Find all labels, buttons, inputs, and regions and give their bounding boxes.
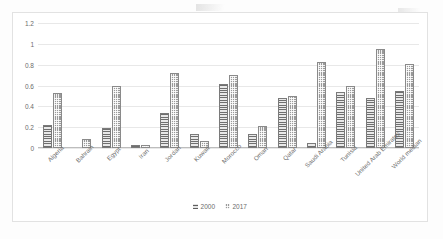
x-axis-labels: AlgeriaBahrainEgyptIranJordanKuwaitMoroc… <box>38 149 419 211</box>
plot-area: 00.20.40.60.811.2 <box>38 23 419 148</box>
bar-2017-egypt[interactable] <box>112 86 121 149</box>
bar-group <box>97 23 126 148</box>
bar-group <box>38 23 67 148</box>
bar-2000-tunisia[interactable] <box>336 92 345 148</box>
bar-2000-iran[interactable] <box>131 145 140 148</box>
bar-2017-morocco[interactable] <box>229 75 238 148</box>
legend-swatch-icon <box>225 204 230 209</box>
x-label-cell: Bahrain <box>67 149 96 211</box>
bar-group <box>67 23 96 148</box>
bar-2000-morocco[interactable] <box>219 84 228 148</box>
x-label-cell: Kuwait <box>185 149 214 211</box>
y-axis-tick-label: 0.2 <box>25 124 34 131</box>
bar-group <box>214 23 243 148</box>
x-label-cell: Tunisia <box>331 149 360 211</box>
scan-artifact-top <box>196 4 236 11</box>
bar-2000-kuwait[interactable] <box>190 134 199 148</box>
bar-group <box>185 23 214 148</box>
bar-2017-saudi-arabia[interactable] <box>317 62 326 148</box>
x-label-cell: Algeria <box>38 149 67 211</box>
bar-group <box>243 23 272 148</box>
bar-group <box>126 23 155 148</box>
bar-2000-oman[interactable] <box>248 134 257 148</box>
bar-2000-jordan[interactable] <box>160 113 169 148</box>
x-axis-tick-label: Iran <box>137 147 150 160</box>
x-label-cell: United Arab Emirates <box>360 149 389 211</box>
x-label-cell: Saudi Arabia <box>302 149 331 211</box>
legend-item-2000[interactable]: 2000 <box>193 203 215 210</box>
y-axis-tick-label: 1 <box>30 40 34 47</box>
y-axis-tick-label: 0.6 <box>25 82 34 89</box>
chart-container: 00.20.40.60.811.2 AlgeriaBahrainEgyptIra… <box>12 12 428 222</box>
bar-2000-saudi-arabia[interactable] <box>307 143 316 148</box>
bar-2017-world-median[interactable] <box>405 64 414 148</box>
y-axis-tick-label: 0.4 <box>25 103 34 110</box>
legend-item-2017[interactable]: 2017 <box>225 203 247 210</box>
legend-label: 2000 <box>201 203 215 210</box>
legend-swatch-icon <box>193 204 198 209</box>
x-label-cell: Iran <box>126 149 155 211</box>
legend-label: 2017 <box>233 203 247 210</box>
bar-group <box>390 23 419 148</box>
x-label-cell: World median <box>390 149 419 211</box>
bar-group <box>331 23 360 148</box>
bar-2000-algeria[interactable] <box>43 125 52 148</box>
bar-series-layer <box>38 23 419 148</box>
x-label-cell: Qatar <box>273 149 302 211</box>
bar-2000-egypt[interactable] <box>102 128 111 148</box>
bar-2000-qatar[interactable] <box>278 98 287 148</box>
x-label-cell: Oman <box>243 149 272 211</box>
bar-2017-jordan[interactable] <box>170 73 179 148</box>
x-label-cell: Egypt <box>97 149 126 211</box>
x-label-cell: Morocco <box>214 149 243 211</box>
bar-group <box>360 23 389 148</box>
bar-2000-united-arab-emirates[interactable] <box>366 98 375 148</box>
bar-2017-united-arab-emirates[interactable] <box>376 49 385 148</box>
y-axis-tick-label: 0 <box>30 145 34 152</box>
bar-group <box>273 23 302 148</box>
y-axis-tick-label: 0.8 <box>25 61 34 68</box>
chart-legend: 20002017 <box>13 203 427 210</box>
bar-group <box>302 23 331 148</box>
x-label-cell: Jordan <box>155 149 184 211</box>
y-axis-tick-label: 1.2 <box>25 20 34 27</box>
bar-2017-algeria[interactable] <box>53 93 62 148</box>
bar-2017-qatar[interactable] <box>288 96 297 148</box>
bar-2017-tunisia[interactable] <box>346 86 355 149</box>
bar-group <box>155 23 184 148</box>
